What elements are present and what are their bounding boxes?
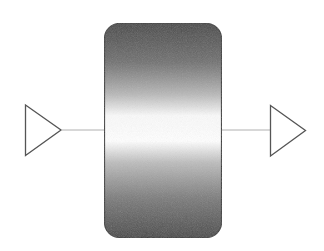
input-port-triangle-icon[interactable] xyxy=(26,105,62,156)
output-port-triangle-icon[interactable] xyxy=(271,106,306,157)
block-body[interactable] xyxy=(105,24,222,238)
block-diagram xyxy=(0,0,324,251)
